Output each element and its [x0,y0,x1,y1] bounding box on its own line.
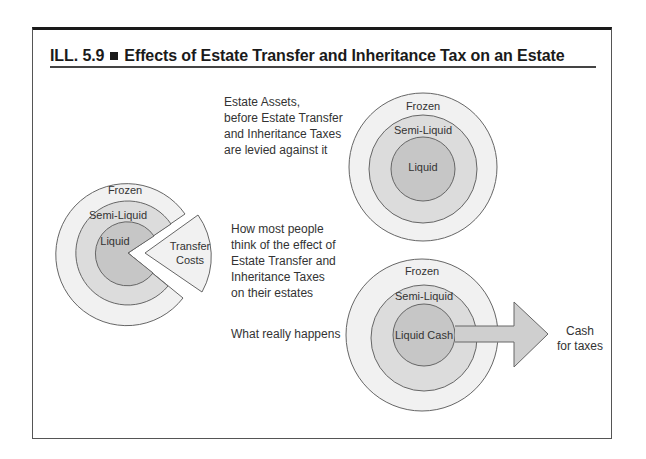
liquid-core [95,222,154,286]
estate-diagrams: Frozen Semi-Liquid Liquid Frozen Semi-Li… [0,0,646,459]
semi-liquid-label: Semi-Liquid [395,290,453,302]
estate-perceived-diagram: Frozen Semi-Liquid Liquid Transfer Costs [56,184,211,326]
semi-liquid-label: Semi-Liquid [89,209,147,221]
transfer-label: Transfer [170,240,211,252]
costs-label: Costs [176,254,205,266]
semi-liquid-label: Semi-Liquid [394,124,452,136]
liquid-label: Liquid [100,235,129,247]
for-taxes-label: for taxes [557,339,603,353]
frozen-label: Frozen [406,100,440,112]
estate-before-diagram: Frozen Semi-Liquid Liquid [349,93,497,241]
cash-label: Cash [566,324,594,338]
frozen-label: Frozen [405,265,439,277]
frozen-label: Frozen [108,184,142,196]
liquid-label: Liquid [408,161,437,173]
estate-actual-diagram: Frozen Semi-Liquid Liquid Cash Cash for … [346,259,603,411]
liquid-cash-label: Liquid Cash [395,329,453,341]
